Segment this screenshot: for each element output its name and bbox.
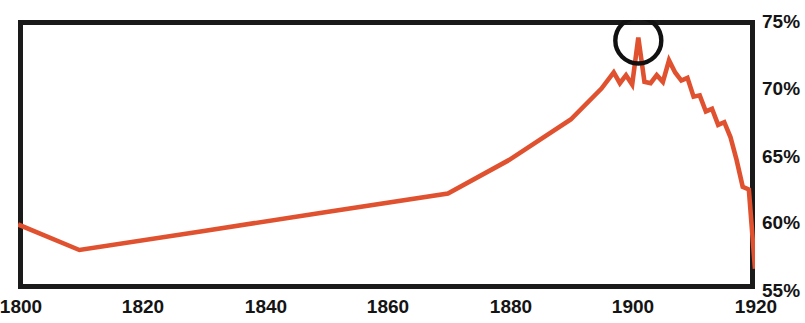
historical-line-chart: 75% 70% 65% 60% 55% 1800 1820 1840 1860 …: [0, 0, 805, 323]
x-axis-tick-1860: 1860: [348, 297, 428, 316]
plot-area: [18, 20, 755, 289]
x-axis-tick-1880: 1880: [471, 297, 551, 316]
x-axis-tick-1820: 1820: [103, 297, 183, 316]
y-axis-tick-75: 75%: [762, 12, 805, 31]
x-axis-tick-1920: 1920: [716, 297, 796, 316]
x-axis-tick-1840: 1840: [226, 297, 306, 316]
x-axis-tick-1800: 1800: [0, 297, 61, 316]
y-axis-tick-65: 65%: [762, 147, 805, 166]
y-axis-tick-60: 60%: [762, 213, 805, 232]
series-line: [18, 37, 755, 268]
y-axis-tick-70: 70%: [762, 79, 805, 98]
x-axis-tick-1900: 1900: [593, 297, 673, 316]
